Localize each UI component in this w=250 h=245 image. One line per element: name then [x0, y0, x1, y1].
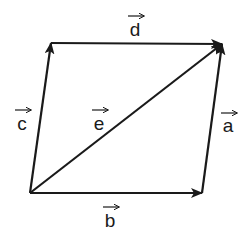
- vector-c-arrow: [30, 43, 51, 193]
- vector-d-arrow: [51, 43, 222, 44]
- label-a-text: a: [223, 115, 234, 136]
- vector-diagram: a b c d e: [0, 0, 250, 245]
- vector-label-d: d: [128, 16, 144, 40]
- vectors-layer: [30, 43, 222, 193]
- vector-label-e: e: [92, 110, 108, 134]
- vector-label-b: b: [103, 207, 119, 231]
- label-b-text: b: [105, 210, 116, 231]
- diagram-canvas: a b c d e: [0, 0, 250, 245]
- label-d-text: d: [130, 19, 141, 40]
- label-c-text: c: [17, 113, 27, 134]
- vector-a-arrow: [202, 44, 222, 193]
- vector-label-c: c: [15, 110, 31, 134]
- vector-e-arrow: [30, 44, 222, 193]
- label-e-text: e: [94, 113, 105, 134]
- labels-layer: a b c d e: [15, 16, 237, 231]
- vector-label-a: a: [221, 113, 237, 136]
